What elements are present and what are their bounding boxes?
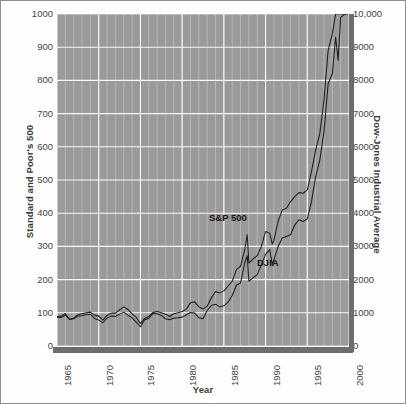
y-axis-left-tick-label: 400 bbox=[7, 207, 53, 218]
x-axis-tick-label: 1990 bbox=[271, 365, 282, 386]
series-line-s-p-500 bbox=[57, 14, 347, 323]
y-axis-left-tick-label: 0 bbox=[7, 340, 53, 351]
y-axis-right-tick-label: 5000 bbox=[353, 174, 399, 185]
y-axis-left-tick-label: 100 bbox=[7, 307, 53, 318]
y-axis-right-tick-label: 2000 bbox=[353, 274, 399, 285]
x-axis-title: Year bbox=[57, 384, 349, 395]
x-axis-tick-label: 1980 bbox=[187, 365, 198, 386]
y-axis-left-tick-label: 900 bbox=[7, 41, 53, 52]
x-axis-tick-label: 1970 bbox=[104, 365, 115, 386]
y-axis-left-tick-label: 500 bbox=[7, 174, 53, 185]
x-axis-tick-label: 1965 bbox=[62, 365, 73, 386]
y-axis-right-tick-label: 8000 bbox=[353, 74, 399, 85]
y-axis-left-tick-label: 200 bbox=[7, 274, 53, 285]
y-axis-left-ticks: 01002003004005006007008009001000 bbox=[5, 1, 53, 404]
y-axis-left-tick-label: 1000 bbox=[7, 8, 53, 19]
series-label-djia: DJIA bbox=[257, 257, 279, 268]
x-axis-tick-label: 1985 bbox=[229, 365, 240, 386]
y-axis-left-tick-label: 700 bbox=[7, 108, 53, 119]
x-axis-tick-label: 1975 bbox=[145, 365, 156, 386]
y-axis-left-tick-label: 600 bbox=[7, 141, 53, 152]
y-axis-right-tick-label: 4000 bbox=[353, 207, 399, 218]
x-axis-bar bbox=[53, 347, 353, 353]
y-axis-right-tick-label: 6000 bbox=[353, 141, 399, 152]
y-axis-right-tick-label: 9000 bbox=[353, 41, 399, 52]
y-axis-right-tick-label: 1000 bbox=[353, 307, 399, 318]
y-axis-right-bar bbox=[349, 14, 354, 352]
y-axis-left-tick-label: 300 bbox=[7, 240, 53, 251]
x-axis-tick-label: 2000 bbox=[354, 365, 365, 386]
y-axis-right-ticks: 010002000300040005000600070008000900010,… bbox=[353, 1, 401, 404]
y-axis-right-tick-label: 10,000 bbox=[353, 8, 399, 19]
y-axis-left-tick-label: 800 bbox=[7, 74, 53, 85]
series-line-djia bbox=[57, 14, 347, 327]
x-axis-tick-label: 1995 bbox=[312, 365, 323, 386]
plot-area: S&P 500 DJIA bbox=[57, 14, 349, 346]
y-axis-right-tick-label: 3000 bbox=[353, 240, 399, 251]
y-axis-right-tick-label: 7000 bbox=[353, 108, 399, 119]
data-lines bbox=[57, 14, 349, 346]
chart-figure: Standard and Poor's 500 Dow-Jones Indust… bbox=[0, 0, 406, 404]
series-label-sp500: S&P 500 bbox=[209, 212, 247, 223]
y-axis-right-tick-label: 0 bbox=[353, 340, 399, 351]
